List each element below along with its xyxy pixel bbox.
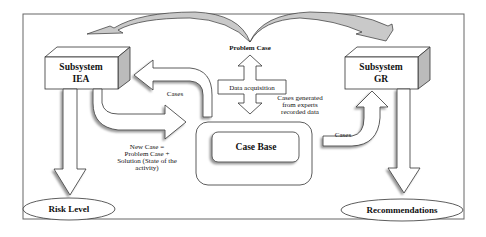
case-base-label: Case Base bbox=[236, 142, 277, 152]
recommendations-oval: Recommendations bbox=[341, 199, 463, 221]
cases-left-label: Cases bbox=[167, 90, 184, 98]
svg-text:activity): activity) bbox=[135, 164, 159, 172]
cases-right-label: Cases bbox=[335, 131, 352, 139]
risk-level-oval: Risk Level bbox=[23, 198, 115, 220]
case-base-container: Case Base bbox=[196, 122, 312, 185]
svg-text:GR: GR bbox=[374, 74, 388, 84]
subsystem-iea-box: Subsystem IEA bbox=[45, 47, 130, 89]
svg-text:Recommendations: Recommendations bbox=[367, 205, 438, 215]
data-acquisition-label: Data acquisition bbox=[229, 84, 275, 92]
svg-text:Subsystem: Subsystem bbox=[59, 62, 102, 72]
svg-text:recorded data: recorded data bbox=[281, 108, 320, 116]
diagram-canvas: Problem Case Data acquisition Cases gene… bbox=[0, 0, 486, 237]
cases-generated-label: Cases generated from experts recorded da… bbox=[277, 94, 323, 116]
svg-text:Risk Level: Risk Level bbox=[49, 204, 90, 214]
svg-text:Subsystem: Subsystem bbox=[359, 62, 402, 72]
svg-text:IEA: IEA bbox=[73, 74, 90, 84]
subsystem-gr-box: Subsystem GR bbox=[345, 47, 430, 89]
problem-case-label: Problem Case bbox=[229, 44, 271, 52]
